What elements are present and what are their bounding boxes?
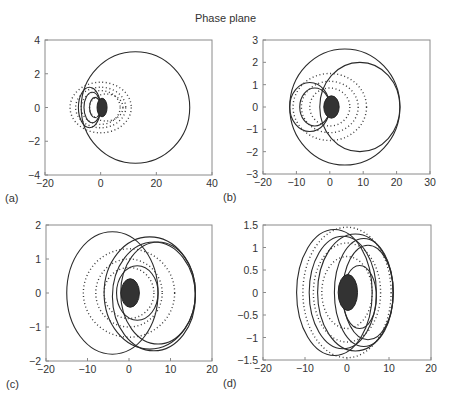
y-tick-label: 2 (34, 68, 40, 80)
plot-area (70, 52, 190, 163)
y-tick-label: 1 (35, 253, 41, 265)
y-tick-label: −4 (28, 169, 40, 181)
plot-area (290, 49, 400, 165)
y-tick-label: −0.5 (237, 309, 258, 321)
y-tick-label: −1 (246, 123, 258, 135)
y-tick-label: 0 (252, 287, 258, 299)
y-tick-label: −1 (29, 321, 41, 333)
y-tick-label: 3 (252, 34, 258, 46)
dense-core (121, 279, 139, 308)
y-tick-label: −1.5 (237, 354, 258, 366)
x-tick-label: 20 (391, 176, 403, 188)
x-tick-label: 10 (357, 176, 369, 188)
y-tick-label: 1.5 (243, 219, 258, 231)
x-tick-label: 10 (383, 362, 395, 374)
x-tick-label: 20 (206, 363, 218, 375)
panel-a: −2002040−4−2024(a) (5, 34, 218, 204)
y-tick-label: 0 (35, 287, 41, 299)
trajectory-curve (104, 237, 195, 349)
y-tick-label: −1 (246, 332, 258, 344)
y-tick-label: −3 (246, 168, 258, 180)
x-tick-label: −10 (287, 176, 305, 188)
phase-plane-figure: −2002040−4−2024(a) −20−100102030−3−2−101… (0, 0, 451, 403)
axes-box (263, 40, 430, 174)
dense-core (97, 98, 107, 117)
axes-box (45, 40, 212, 175)
x-tick-label: −10 (79, 363, 97, 375)
dense-core (324, 96, 339, 118)
y-tick-label: 0.5 (243, 264, 258, 276)
y-tick-label: 4 (34, 34, 40, 46)
x-tick-label: 0 (344, 362, 350, 374)
panel-label: (a) (5, 192, 18, 204)
y-tick-label: 2 (252, 56, 258, 68)
x-tick-label: 0 (126, 363, 132, 375)
y-tick-label: −2 (246, 146, 258, 158)
y-tick-label: −2 (28, 135, 40, 147)
panel-d: −20−1001020−1.5−1−0.500.511.5(d) (223, 219, 437, 389)
x-tick-label: 10 (165, 363, 177, 375)
x-tick-label: 40 (206, 177, 218, 189)
trajectory-curve (290, 49, 400, 165)
x-tick-label: 20 (150, 177, 162, 189)
x-tick-label: 0 (98, 177, 104, 189)
plot-area (67, 232, 196, 354)
x-tick-label: 30 (424, 176, 436, 188)
y-tick-label: 1 (252, 79, 258, 91)
y-tick-label: −2 (29, 355, 41, 367)
y-tick-label: 1 (252, 242, 258, 254)
panel-label: (b) (223, 191, 236, 203)
y-tick-label: 0 (252, 101, 258, 113)
x-tick-label: 20 (425, 362, 437, 374)
y-tick-label: 2 (35, 219, 41, 231)
plot-area (297, 227, 394, 358)
x-tick-label: −10 (296, 362, 314, 374)
panel-c: −20−1001020−2−1012(c) (6, 219, 218, 390)
panel-label: (c) (6, 378, 19, 390)
dense-core (338, 275, 357, 311)
panel-b: −20−100102030−3−2−10123(b) (223, 34, 436, 203)
y-tick-label: 0 (34, 102, 40, 114)
x-tick-label: 0 (327, 176, 333, 188)
panel-label: (d) (223, 377, 236, 389)
